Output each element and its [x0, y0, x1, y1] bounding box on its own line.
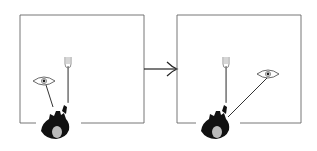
gaze-line — [228, 78, 267, 117]
transition-arrow — [144, 62, 177, 76]
right-panel — [177, 15, 301, 139]
person-topdown-icon — [201, 105, 229, 139]
diagram-svg — [0, 0, 317, 151]
person-topdown-icon — [41, 105, 69, 139]
diagram-canvas — [0, 0, 317, 151]
left-room-outline — [20, 15, 144, 123]
eye-icon — [33, 77, 55, 85]
left-panel — [20, 15, 144, 139]
eye-icon — [257, 70, 279, 78]
fork-icon — [65, 57, 71, 103]
gaze-line — [46, 85, 53, 107]
fork-icon — [223, 57, 229, 103]
right-room-outline — [177, 15, 301, 123]
